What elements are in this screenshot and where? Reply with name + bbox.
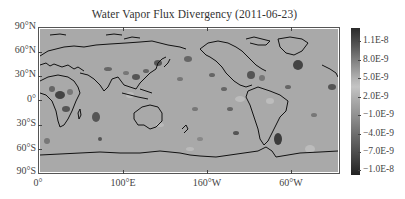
y-tick-0: 0°	[27, 93, 36, 104]
x-tickmark-top	[291, 27, 292, 31]
x-tick-0: 0°	[34, 177, 43, 188]
colorbar-tick	[358, 60, 361, 61]
x-tickmark-top	[207, 27, 208, 31]
chart-title: Water Vapor Flux Divergency (2011-06-23)	[0, 8, 405, 20]
colorbar-tick	[358, 115, 361, 116]
colorbar-label: 1.1E-8	[363, 35, 389, 45]
y-tick-90N: 90°N	[15, 20, 36, 31]
world-map	[40, 29, 338, 172]
colorbar-label: −7.0E-9	[363, 146, 394, 156]
y-tick-30N: 30°N	[15, 68, 36, 79]
colorbar-label: −1.0E-9	[363, 109, 394, 119]
colorbar-label: 5.0E-9	[363, 72, 389, 82]
colorbar-tick	[358, 134, 361, 135]
y-tickmark	[38, 100, 42, 101]
chart-title-text: Water Vapor Flux Divergency (2011-06-23)	[92, 8, 297, 20]
colorbar-label: −4.0E-9	[363, 128, 394, 138]
y-tickmark	[38, 52, 42, 53]
colorbar-label: 2.0E-9	[363, 91, 389, 101]
colorbar-tick	[358, 78, 361, 79]
x-tickmark	[291, 170, 292, 174]
x-tick-100E: 100°E	[110, 177, 135, 188]
x-tickmark	[123, 170, 124, 174]
y-tickmark	[38, 149, 42, 150]
y-tick-60N: 60°N	[15, 44, 36, 55]
map-plot-area	[40, 29, 338, 172]
x-tick-160W: 160°W	[193, 177, 221, 188]
colorbar-tick	[358, 41, 361, 42]
colorbar-tick	[358, 97, 361, 98]
colorbar-tick	[358, 170, 361, 171]
y-tickmark	[38, 125, 42, 126]
y-tickmark	[38, 76, 42, 77]
colorbar-label: −1.0E-8	[363, 164, 394, 174]
y-tick-90S: 90°S	[16, 165, 36, 176]
colorbar-tick	[358, 152, 361, 153]
colorbar-label: 8.0E-9	[363, 54, 389, 64]
y-tick-60S: 60°S	[16, 142, 36, 153]
x-tickmark-top	[123, 27, 124, 31]
x-tick-60W: 60°W	[279, 177, 302, 188]
y-tick-30S: 30°S	[16, 117, 36, 128]
x-tickmark	[207, 170, 208, 174]
